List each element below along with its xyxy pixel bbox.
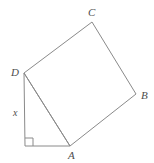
right-triangle (24, 73, 70, 146)
vertex-label-b: B (141, 90, 148, 101)
geometry-canvas (0, 0, 154, 163)
right-angle-icon (25, 138, 33, 146)
side-length-label-x: x (13, 108, 17, 118)
square-abcd (24, 22, 136, 146)
vertex-label-d: D (11, 67, 19, 78)
vertex-label-c: C (88, 7, 95, 18)
vertex-label-a: A (68, 150, 75, 161)
geometry-figure: C D B A x (0, 0, 154, 163)
